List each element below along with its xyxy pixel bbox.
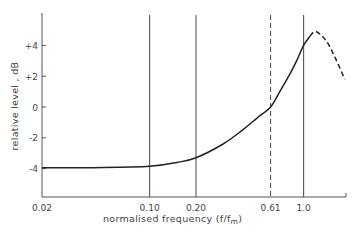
axes [42, 13, 346, 197]
x-tick-label: 0.02 [32, 203, 52, 213]
x-axis-label-close: ) [238, 213, 242, 224]
x-axis-label: normalised frequency (f/fm) [103, 213, 242, 226]
y-tick-label: +4 [25, 41, 39, 51]
x-tick-label: 0.20 [186, 203, 206, 213]
x-ticks: 0.020.100.200.611.0 [32, 203, 311, 213]
y-ticks: +4+20-2-4 [25, 41, 46, 174]
y-tick-label: -4 [29, 164, 38, 174]
response-curve-solid [42, 36, 310, 168]
y-tick-label: 0 [32, 103, 38, 113]
series-group [42, 31, 345, 167]
response-curve-dashed [310, 31, 345, 79]
x-tick-label: 1.0 [296, 203, 311, 213]
x-axis-label-main: normalised frequency (f/f [103, 213, 231, 224]
x-axis-label-subscript: m [231, 217, 239, 226]
x-tick-label: 0.61 [261, 203, 281, 213]
chart-canvas: +4+20-2-4 0.020.100.200.611.0 relative l… [0, 0, 359, 235]
y-tick-label: +2 [25, 72, 38, 82]
x-tick-label: 0.10 [140, 203, 160, 213]
reference-lines [150, 15, 304, 197]
y-axis-label: relative level , dB [9, 62, 20, 151]
y-tick-label: -2 [29, 133, 38, 143]
